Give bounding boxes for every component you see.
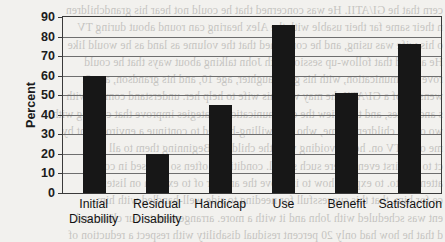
- y-tick-label: 10: [41, 166, 55, 180]
- x-tick-label: Use: [252, 197, 315, 226]
- y-tick-label: 50: [41, 88, 55, 102]
- y-tick-label: 70: [41, 49, 55, 63]
- bar-chart: Percent 0102030405060708090 Initial Disa…: [0, 0, 445, 242]
- x-tick-label: Initial Disability: [62, 197, 125, 226]
- x-tick-label: Benefit: [315, 197, 378, 226]
- bar-slot: [189, 17, 252, 193]
- bar: [146, 154, 169, 193]
- x-tick-label: Satisfaction: [378, 197, 442, 226]
- x-axis-labels: Initial DisabilityResidual DisabilityHan…: [62, 197, 442, 226]
- y-tick-label: 80: [41, 30, 55, 44]
- y-axis-title: Percent: [24, 82, 38, 128]
- plot-area: 0102030405060708090: [62, 16, 442, 194]
- y-tick-label: 0: [48, 186, 55, 200]
- bar: [83, 76, 106, 193]
- y-tick-label: 20: [41, 147, 55, 161]
- bar: [335, 93, 358, 193]
- bar-slot: [252, 17, 315, 193]
- bar-slot: [315, 17, 378, 193]
- bar-slot: [63, 17, 126, 193]
- bar: [209, 105, 232, 193]
- y-tick-label: 40: [41, 108, 55, 122]
- x-tick-label: Residual Disability: [125, 197, 188, 226]
- bar-slot: [126, 17, 189, 193]
- y-tick-label: 90: [41, 10, 55, 24]
- y-tick-mark: [58, 193, 63, 194]
- y-tick-label: 60: [41, 69, 55, 83]
- bar-slot: [378, 17, 441, 193]
- bar: [272, 25, 295, 193]
- x-tick-label: Handicap: [189, 197, 252, 226]
- bar: [398, 44, 421, 193]
- bar-series: [63, 17, 441, 193]
- y-tick-label: 30: [41, 127, 55, 141]
